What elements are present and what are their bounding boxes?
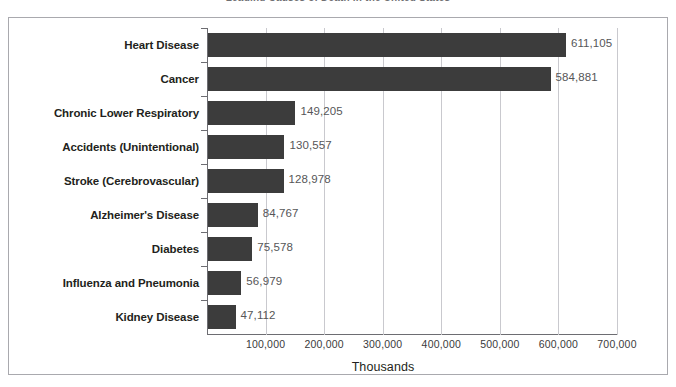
bar-value-label: 584,881 [556, 71, 598, 83]
category-label: Diabetes [9, 243, 199, 255]
bar[interactable] [208, 67, 551, 91]
bar-value-label: 56,979 [246, 275, 282, 287]
category-label: Cancer [9, 73, 199, 85]
bar-row: 130,557 [207, 130, 617, 164]
x-tick-label: 200,000 [304, 338, 343, 350]
bar-row: 611,105 [207, 28, 617, 62]
category-label: Stroke (Cerebrovascular) [9, 175, 199, 187]
category-label: Accidents (Unintentional) [9, 141, 199, 153]
category-label: Influenza and Pneumonia [9, 277, 199, 289]
bar[interactable] [208, 237, 252, 261]
x-axis-tick-labels: 100,000200,000300,000400,000500,000600,0… [199, 338, 669, 354]
category-label: Alzheimer's Disease [9, 209, 199, 221]
bar-row: 84,767 [207, 198, 617, 232]
y-axis-tick [201, 62, 207, 63]
y-axis-tick [201, 96, 207, 97]
x-tick-label: 500,000 [480, 338, 519, 350]
bar-row: 75,578 [207, 232, 617, 266]
bar-value-label: 47,112 [241, 309, 276, 321]
bar[interactable] [208, 101, 295, 125]
bar[interactable] [208, 33, 566, 57]
bar[interactable] [208, 271, 241, 295]
category-label: Chronic Lower Respiratory [9, 107, 199, 119]
y-axis-tick [201, 266, 207, 267]
bar-value-label: 611,105 [571, 37, 612, 49]
chart-title: Leading Causes of Death in the United St… [0, 0, 676, 1]
bar-value-label: 128,978 [289, 173, 331, 185]
x-tick-label: 600,000 [539, 338, 578, 350]
bar-row: 149,205 [207, 96, 617, 130]
x-axis-title: Thousands [0, 360, 676, 374]
category-label: Kidney Disease [9, 311, 199, 323]
y-axis-tick [201, 198, 207, 199]
y-axis-category-labels: Heart DiseaseCancerChronic Lower Respira… [9, 28, 199, 335]
x-axis-line [207, 334, 617, 335]
x-tick-label: 100,000 [246, 338, 285, 350]
bar-value-label: 149,205 [300, 105, 342, 117]
x-tick-label: 300,000 [363, 338, 402, 350]
x-tick-label: 400,000 [422, 338, 461, 350]
bar[interactable] [208, 135, 284, 159]
category-label: Heart Disease [9, 39, 199, 51]
y-axis-tick [201, 130, 207, 131]
bar[interactable] [208, 203, 258, 227]
bar-row: 128,978 [207, 164, 617, 198]
bar[interactable] [208, 305, 236, 329]
y-axis-tick [201, 232, 207, 233]
plot-area: 611,105584,881149,205130,557128,97884,76… [199, 28, 617, 335]
bar-value-label: 84,767 [263, 207, 299, 219]
bar-row: 47,112 [207, 300, 617, 334]
bar-row: 56,979 [207, 266, 617, 300]
plot-inner: 611,105584,881149,205130,557128,97884,76… [207, 28, 617, 335]
x-axis-title-text: Thousands [352, 360, 415, 374]
y-axis-tick [201, 28, 207, 29]
bar-row: 584,881 [207, 62, 617, 96]
bar-value-label: 75,578 [257, 241, 293, 253]
x-tick-label: 700,000 [597, 338, 636, 350]
bar[interactable] [208, 169, 284, 193]
y-axis-tick [201, 164, 207, 165]
bar-value-label: 130,557 [289, 139, 331, 151]
gridline-700000 [617, 28, 618, 335]
y-axis-tick [201, 300, 207, 301]
